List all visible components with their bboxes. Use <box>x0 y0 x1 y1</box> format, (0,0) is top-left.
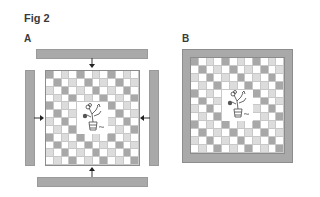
grid-cell <box>199 121 207 129</box>
grid-cell <box>62 157 70 165</box>
grid-cell <box>207 90 215 98</box>
grid-cell <box>116 102 124 110</box>
grid-cell <box>214 129 222 137</box>
grid-cell <box>222 145 230 153</box>
grid-cell <box>245 145 253 153</box>
grid-cell <box>46 134 54 142</box>
grid-cell <box>230 58 238 66</box>
grid-cell <box>276 145 284 153</box>
grid-cell <box>199 90 207 98</box>
grid-cell <box>124 142 132 150</box>
grid-cell <box>77 149 85 157</box>
grid-cell <box>46 157 54 165</box>
plant-icon <box>224 89 252 119</box>
grid-cell <box>222 129 230 137</box>
grid-cell <box>214 82 222 90</box>
grid-cell <box>77 87 85 95</box>
grid-cell <box>108 71 116 79</box>
grid-cell <box>54 142 62 150</box>
grid-cell <box>62 79 70 87</box>
grid-cell <box>207 66 215 74</box>
arrow-down-icon <box>88 58 96 69</box>
grid-cell <box>54 118 62 126</box>
grid-cell <box>261 113 269 121</box>
grid-cell <box>269 105 277 113</box>
grid-cell <box>245 121 253 129</box>
grid-cell <box>54 102 62 110</box>
grid-cell <box>222 58 230 66</box>
grid-cell <box>238 74 246 82</box>
grid-cell <box>124 79 132 87</box>
grid-cell <box>124 126 132 134</box>
grid-cell <box>191 74 199 82</box>
grid-cell <box>276 82 284 90</box>
grid-cell <box>69 79 77 87</box>
grid-cell <box>46 126 54 134</box>
grid-cell <box>261 90 269 98</box>
grid-cell <box>46 87 54 95</box>
grid-cell <box>191 105 199 113</box>
grid-cell <box>199 58 207 66</box>
grid-cell <box>116 142 124 150</box>
grid-cell <box>69 126 77 134</box>
grid-cell <box>46 79 54 87</box>
grid-cell <box>207 58 215 66</box>
grid-cell <box>245 129 253 137</box>
grid-cell <box>100 79 108 87</box>
grid-cell <box>230 66 238 74</box>
grid-cell <box>230 145 238 153</box>
grid-cell <box>253 82 261 90</box>
grid-cell <box>100 87 108 95</box>
grid-cell <box>108 149 116 157</box>
grid-cell <box>276 105 284 113</box>
grid-cell <box>131 126 139 134</box>
grid-cell <box>131 95 139 103</box>
panel-a-label: A <box>24 33 31 44</box>
grid-cell <box>77 142 85 150</box>
grid-cell <box>131 102 139 110</box>
grid-cell <box>108 142 116 150</box>
grid-cell <box>77 71 85 79</box>
grid-cell <box>77 134 85 142</box>
grid-cell <box>54 126 62 134</box>
grid-cell <box>238 145 246 153</box>
grid-cell <box>276 74 284 82</box>
grid-cell <box>85 71 93 79</box>
grid-cell <box>108 118 116 126</box>
grid-cell <box>85 142 93 150</box>
grid-cell <box>276 90 284 98</box>
grid-cell <box>276 137 284 145</box>
grid-cell <box>131 118 139 126</box>
grid-cell <box>69 102 77 110</box>
grid-cell <box>199 74 207 82</box>
grid-cell <box>269 74 277 82</box>
grid-cell <box>222 66 230 74</box>
grid-cell <box>191 137 199 145</box>
grid-cell <box>46 95 54 103</box>
grid-cell <box>238 58 246 66</box>
grid-cell <box>207 98 215 106</box>
grid-cell <box>46 110 54 118</box>
grid-cell <box>245 74 253 82</box>
grid-cell <box>93 71 101 79</box>
grid-cell <box>191 121 199 129</box>
grid-cell <box>93 142 101 150</box>
grid-cell <box>230 74 238 82</box>
grid-cell <box>124 118 132 126</box>
grid-cell <box>93 134 101 142</box>
grid-cell <box>62 118 70 126</box>
grid-cell <box>93 79 101 87</box>
grid-cell <box>108 110 116 118</box>
grid-cell <box>199 66 207 74</box>
plant-icon <box>79 102 107 132</box>
grid-cell <box>62 95 70 103</box>
grid-cell <box>191 113 199 121</box>
grid-cell <box>131 142 139 150</box>
grid-cell <box>46 142 54 150</box>
grid-cell <box>124 87 132 95</box>
grid-cell <box>69 87 77 95</box>
grid-cell <box>269 66 277 74</box>
grid-cell <box>116 79 124 87</box>
grid-cell <box>214 105 222 113</box>
grid-cell <box>54 71 62 79</box>
